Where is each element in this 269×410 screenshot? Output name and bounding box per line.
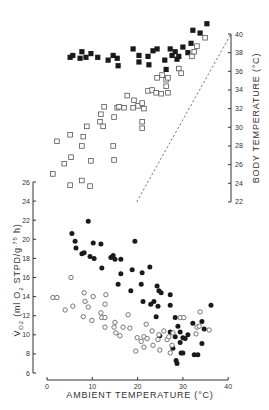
open-circle-marker xyxy=(91,294,95,298)
ambient-temperature-tick-label: 0 xyxy=(45,383,49,390)
open-circle-marker xyxy=(128,326,132,330)
filled-circle-marker xyxy=(141,299,146,304)
filled-circle-marker xyxy=(180,350,185,355)
open-circle-marker xyxy=(145,336,149,340)
open-square-marker xyxy=(101,124,106,129)
filled-square-marker xyxy=(154,46,159,51)
filled-circle-marker xyxy=(86,219,91,224)
open-circle-marker xyxy=(194,332,198,336)
filled-square-marker xyxy=(115,56,120,61)
open-circle-marker xyxy=(142,345,146,349)
open-square-marker xyxy=(112,115,117,120)
open-square-marker xyxy=(51,172,56,177)
filled-square-marker xyxy=(77,56,82,61)
ambient-temperature-tick-label: 40 xyxy=(224,383,232,390)
filled-circle-marker xyxy=(82,250,87,255)
vo2-units-exponent: .75 xyxy=(12,236,18,247)
body-temperature-tick-label: 40 xyxy=(235,31,243,38)
filled-circle-marker xyxy=(159,290,164,295)
open-circle-marker xyxy=(126,313,130,317)
filled-square-marker xyxy=(176,54,181,59)
open-square-marker xyxy=(98,119,103,124)
open-square-marker xyxy=(159,91,164,96)
filled-circle-marker xyxy=(118,271,123,276)
open-circle-marker xyxy=(63,308,67,312)
filled-circle-marker xyxy=(130,267,135,272)
open-square-marker xyxy=(99,112,104,117)
body-temperature-axis-title: BODY TEMPERATURE (°C) xyxy=(251,53,261,183)
filled-circle-marker xyxy=(175,324,180,329)
open-circle-marker xyxy=(162,329,166,333)
filled-square-marker xyxy=(173,49,178,54)
ambient-temperature-tick-label: 10 xyxy=(88,383,96,390)
filled-circle-marker xyxy=(202,327,207,332)
open-square-marker xyxy=(89,159,94,164)
open-square-marker xyxy=(203,35,208,40)
open-square-marker xyxy=(155,76,160,81)
open-circle-marker xyxy=(157,333,161,337)
filled-square-marker xyxy=(146,62,151,67)
vo2-tick-label: 26 xyxy=(22,179,30,186)
open-square-marker xyxy=(142,106,147,111)
filled-circle-marker xyxy=(139,282,144,287)
ambient-temperature-tick-label: 30 xyxy=(179,383,187,390)
filled-circle-marker xyxy=(168,303,173,308)
vo2-tick-label: 8 xyxy=(26,350,30,357)
ambient-temperature-axis: 010203040 xyxy=(45,377,232,390)
open-circle-marker xyxy=(171,331,175,335)
filled-circle-marker xyxy=(154,314,159,319)
open-square-marker xyxy=(68,183,73,188)
body-temperature-tick-label: 26 xyxy=(235,161,243,168)
filled-square-marker xyxy=(106,58,111,63)
open-square-marker xyxy=(154,90,159,95)
open-square-marker xyxy=(69,155,74,160)
open-square-marker xyxy=(122,105,127,110)
filled-circle-marker xyxy=(73,245,78,250)
open-circle-marker xyxy=(103,325,107,329)
filled-circle-marker xyxy=(98,242,103,247)
ambient-temperature-tick-label: 20 xyxy=(134,383,142,390)
open-circle-marker xyxy=(156,337,160,341)
open-circle-marker xyxy=(90,318,94,322)
body-temperature-axis: 22242628303234363840 xyxy=(228,31,243,206)
open-circle-marker xyxy=(134,349,138,353)
filled-square-marker xyxy=(70,53,75,58)
vo2-tick-label: 18 xyxy=(22,255,30,262)
open-circle-marker xyxy=(118,334,122,338)
open-square-marker xyxy=(195,44,200,49)
vo2-tick-label: 12 xyxy=(22,312,30,319)
open-circle-marker xyxy=(113,320,117,324)
filled-circle-marker xyxy=(128,288,133,293)
open-square-marker xyxy=(190,54,195,59)
open-circle-marker xyxy=(103,302,107,306)
open-square-marker xyxy=(62,161,67,166)
body-temperature-tick-label: 30 xyxy=(235,124,243,131)
filled-square-marker xyxy=(164,67,169,72)
open-square-marker xyxy=(132,98,137,103)
vo2-tick-label: 22 xyxy=(22,217,30,224)
filled-square-marker xyxy=(190,28,195,33)
vo2-units-part1: (ml O xyxy=(12,291,22,320)
open-square-marker xyxy=(160,73,165,78)
open-square-marker xyxy=(80,144,85,149)
open-circle-marker xyxy=(112,325,116,329)
open-circle-marker xyxy=(114,331,118,335)
open-circle-marker xyxy=(167,335,171,339)
open-circle-marker xyxy=(86,305,90,309)
open-circle-marker xyxy=(83,299,87,303)
open-square-marker xyxy=(80,178,85,183)
filled-square-marker xyxy=(145,54,150,59)
body-temperature-tick-label: 38 xyxy=(235,49,243,56)
filled-square-marker xyxy=(79,49,84,54)
body-temperature-tick-label: 36 xyxy=(235,68,243,75)
vo2-tick-label: 14 xyxy=(22,293,30,300)
open-circle-marker xyxy=(121,325,125,329)
filled-square-marker xyxy=(95,55,100,60)
open-square-marker xyxy=(55,139,60,144)
filled-circle-marker xyxy=(168,292,173,297)
filled-square-marker xyxy=(130,46,135,51)
filled-square-marker xyxy=(136,53,141,58)
open-square-marker xyxy=(88,184,93,189)
open-circle-marker xyxy=(82,291,86,295)
open-circle-marker xyxy=(103,315,107,319)
